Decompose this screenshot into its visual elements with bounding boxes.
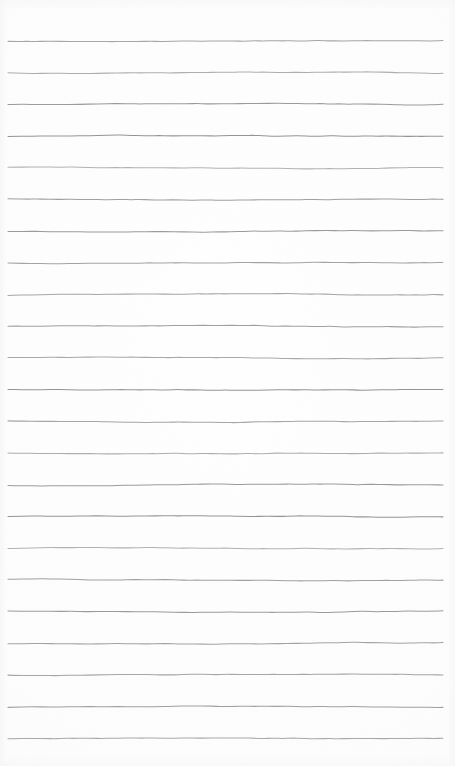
lined-paper-page: [0, 0, 455, 766]
writing-area[interactable]: [8, 10, 443, 756]
